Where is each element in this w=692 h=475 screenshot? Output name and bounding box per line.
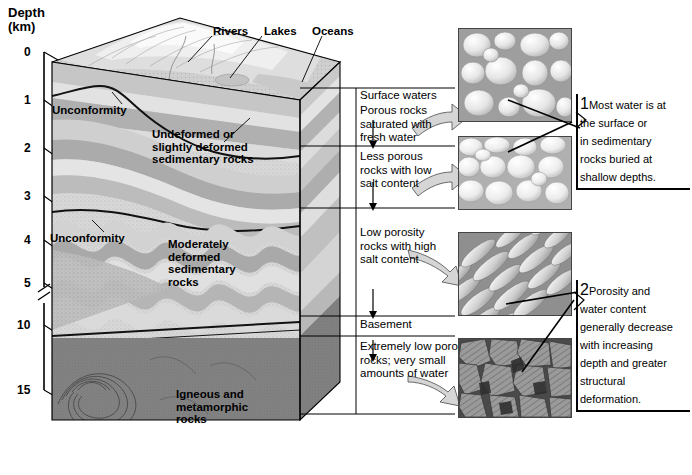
callout-2: 2Porosity and water content generally de… [576, 280, 690, 412]
callout-2-text: Porosity and water content generally dec… [580, 285, 673, 405]
leader-callout2-to-panel3 [506, 292, 578, 304]
leader-callout2-to-panel4 [522, 300, 574, 372]
callout-1: 1Most water is at the surface or in sedi… [576, 94, 690, 190]
callout-1-number: 1 [580, 95, 589, 112]
callout-2-number: 2 [580, 281, 589, 298]
zone-less-porous-rocks: Less porous rocks with low salt content [360, 150, 432, 191]
callout-1-text: Most water is at the surface or in sedim… [580, 99, 666, 183]
leader-callout1-to-panel2 [508, 122, 572, 152]
zone-low-porosity-rocks: Low porosity rocks with high salt conten… [360, 226, 436, 267]
zone-basement: Basement [360, 318, 412, 332]
zone-surface-waters: Surface waters [360, 89, 437, 103]
zone-porous-rocks: Porous rocks saturated with fresh water [360, 104, 432, 145]
